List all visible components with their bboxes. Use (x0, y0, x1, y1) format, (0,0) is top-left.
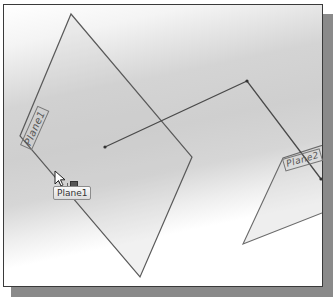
hover-tooltip: Plane1 (53, 186, 91, 200)
sketch-vertex[interactable] (245, 79, 248, 82)
sketch-endpoint-start[interactable] (103, 145, 106, 148)
graphics-viewport[interactable] (3, 4, 323, 287)
scene-canvas[interactable] (4, 5, 322, 286)
plane1-outline[interactable] (20, 14, 192, 277)
